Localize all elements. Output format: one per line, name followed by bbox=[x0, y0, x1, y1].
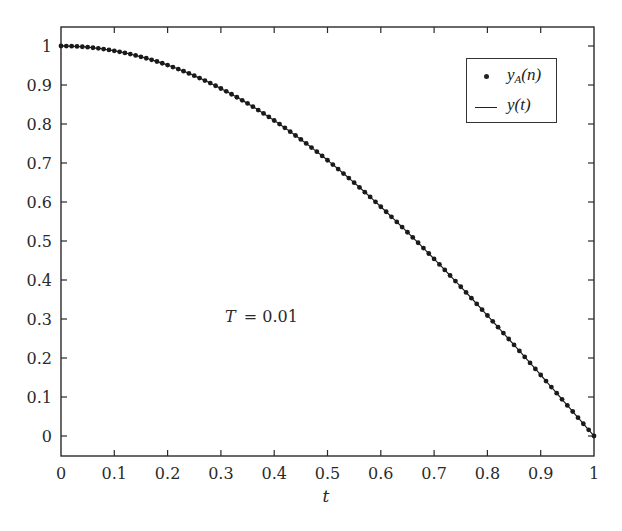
data-point bbox=[485, 313, 490, 318]
data-point bbox=[85, 45, 90, 50]
data-point bbox=[139, 54, 144, 59]
y-tick-label: 0.5 bbox=[27, 232, 52, 251]
data-point bbox=[517, 349, 522, 354]
data-point bbox=[266, 115, 271, 120]
data-point bbox=[144, 56, 149, 61]
data-point bbox=[107, 47, 112, 52]
line-marker-icon bbox=[475, 107, 497, 108]
data-point bbox=[565, 403, 570, 408]
data-point bbox=[437, 262, 442, 267]
data-point bbox=[165, 63, 170, 68]
data-point bbox=[320, 154, 325, 159]
data-point bbox=[538, 373, 543, 378]
y-tick-label: 0.9 bbox=[27, 76, 52, 95]
y-tick-label: 0.1 bbox=[27, 388, 52, 407]
data-point bbox=[490, 319, 495, 324]
data-point bbox=[448, 273, 453, 278]
data-point bbox=[560, 397, 565, 402]
data-point bbox=[112, 48, 117, 53]
y-tick-label: 0.4 bbox=[27, 271, 52, 290]
data-point bbox=[96, 46, 101, 51]
data-point bbox=[304, 141, 309, 146]
data-point bbox=[474, 301, 479, 306]
y-tick-label: 0.7 bbox=[27, 154, 52, 173]
data-point bbox=[176, 67, 181, 72]
data-point bbox=[528, 361, 533, 366]
data-point bbox=[570, 409, 575, 414]
data-point bbox=[128, 52, 133, 57]
legend-label-yA: y bbox=[507, 65, 515, 84]
data-point bbox=[203, 78, 208, 83]
data-point bbox=[250, 104, 255, 109]
data-point bbox=[506, 337, 511, 342]
data-point bbox=[576, 415, 581, 420]
x-tick-label: 1 bbox=[589, 464, 599, 483]
data-point bbox=[442, 268, 447, 273]
data-point bbox=[586, 427, 591, 432]
y-tick-label: 0.2 bbox=[27, 349, 52, 368]
data-point bbox=[469, 296, 474, 301]
data-point bbox=[432, 257, 437, 262]
data-point bbox=[512, 343, 517, 348]
data-point bbox=[522, 355, 527, 360]
data-point bbox=[91, 45, 96, 50]
legend-label-yt: y(t) bbox=[507, 95, 531, 115]
data-point bbox=[368, 195, 373, 200]
legend-item-yt: y(t) bbox=[467, 93, 556, 119]
data-point bbox=[533, 367, 538, 372]
data-point bbox=[229, 92, 234, 97]
data-point bbox=[272, 118, 277, 123]
data-point bbox=[544, 379, 549, 384]
data-point bbox=[288, 129, 293, 134]
data-point bbox=[352, 180, 357, 185]
data-point bbox=[464, 290, 469, 295]
data-point bbox=[346, 176, 351, 181]
x-tick-label: 0.9 bbox=[528, 464, 553, 483]
y-tick-label: 0.8 bbox=[27, 115, 52, 134]
data-point bbox=[234, 95, 239, 100]
data-point bbox=[293, 133, 298, 138]
data-point bbox=[149, 57, 154, 62]
dot-marker-icon bbox=[484, 74, 489, 79]
x-tick-label: 0.6 bbox=[368, 464, 393, 483]
data-point bbox=[309, 145, 314, 150]
data-point bbox=[160, 61, 165, 66]
data-point bbox=[341, 171, 346, 176]
data-point bbox=[357, 185, 362, 190]
data-point bbox=[181, 69, 186, 74]
x-tick-label: 0.3 bbox=[208, 464, 233, 483]
data-point bbox=[123, 51, 128, 56]
data-point bbox=[133, 53, 138, 58]
data-point bbox=[101, 47, 106, 52]
data-point bbox=[416, 240, 421, 245]
data-point bbox=[59, 44, 64, 49]
data-point bbox=[155, 59, 160, 64]
y-tick-label: 1 bbox=[42, 37, 52, 56]
y-tick-label: 0.3 bbox=[27, 310, 52, 329]
data-point bbox=[389, 214, 394, 219]
data-point bbox=[192, 73, 197, 78]
data-point bbox=[219, 86, 224, 91]
annotation-T: T = 0.01 bbox=[225, 307, 298, 326]
data-point bbox=[501, 331, 506, 336]
data-point bbox=[187, 71, 192, 76]
x-axis-label: t bbox=[323, 486, 330, 506]
y-tick-label: 0 bbox=[42, 427, 52, 446]
data-point bbox=[277, 122, 282, 127]
data-point bbox=[240, 98, 245, 103]
legend-label-yA-tail: (n) bbox=[521, 65, 541, 84]
data-point bbox=[80, 44, 85, 49]
annotation-T-symbol: T bbox=[225, 307, 237, 326]
x-tick-label: 0.7 bbox=[421, 464, 446, 483]
x-tick-label: 0.5 bbox=[315, 464, 340, 483]
data-point bbox=[330, 162, 335, 167]
x-tick-label: 0.2 bbox=[155, 464, 180, 483]
data-point bbox=[256, 108, 261, 113]
data-point bbox=[197, 76, 202, 81]
data-point bbox=[282, 125, 287, 130]
data-point bbox=[261, 111, 266, 116]
data-point bbox=[400, 225, 405, 230]
data-point bbox=[581, 421, 586, 426]
data-point bbox=[314, 149, 319, 154]
data-point bbox=[554, 391, 559, 396]
